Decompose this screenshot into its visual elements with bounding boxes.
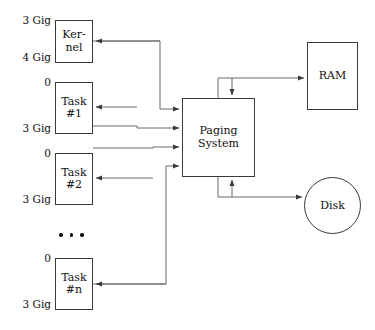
node-disk: Disk <box>304 177 361 234</box>
node-paging-system: Paging System <box>182 98 255 177</box>
node-kernel-label-line1: Ker- <box>62 29 85 41</box>
node-task-n-label-line2: #n <box>66 284 82 296</box>
task-1-bottom-address-label: 3 Gig <box>4 123 51 134</box>
kernel-top-address-label: 3 Gig <box>4 15 51 26</box>
node-paging-system-label-line1: Paging <box>199 125 237 137</box>
paging-system-diagram: Ker- nel 3 Gig 4 Gig Task #1 0 3 Gig Tas… <box>0 0 375 330</box>
edge-task1-to-paging <box>93 126 179 128</box>
edge-kernel-to-paging <box>93 41 179 109</box>
node-paging-system-label-line2: System <box>198 138 239 150</box>
task-n-bottom-address-label: 3 Gig <box>4 299 51 310</box>
node-task-2: Task #2 <box>55 153 93 205</box>
node-task-n: Task #n <box>55 258 93 310</box>
edge-task2-to-paging <box>93 147 179 148</box>
node-kernel-label-line2: nel <box>65 42 82 54</box>
tasks-ellipsis <box>59 233 84 237</box>
ellipsis-dot <box>59 233 63 237</box>
kernel-bottom-address-label: 4 Gig <box>4 52 51 63</box>
ellipsis-dot <box>70 233 74 237</box>
edge-taskn-to-paging <box>93 166 179 284</box>
edge-paging-to-disk <box>218 177 302 197</box>
task-1-top-address-label: 0 <box>4 77 51 88</box>
node-ram: RAM <box>307 42 358 110</box>
ellipsis-dot <box>80 233 84 237</box>
task-2-bottom-address-label: 3 Gig <box>4 194 51 205</box>
node-ram-label: RAM <box>319 70 347 82</box>
node-task-1-label-line2: #1 <box>66 108 82 120</box>
task-n-top-address-label: 0 <box>4 253 51 264</box>
node-disk-label: Disk <box>320 199 345 212</box>
node-task-1: Task #1 <box>55 82 93 134</box>
edge-paging-to-ram <box>218 78 304 98</box>
task-2-top-address-label: 0 <box>4 148 51 159</box>
node-task-2-label-line2: #2 <box>66 179 82 191</box>
node-kernel: Ker- nel <box>55 20 93 63</box>
